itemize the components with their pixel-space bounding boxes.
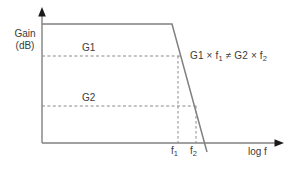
f1-tick-label: f1 [171, 145, 178, 157]
gain-bandwidth-inequality-annotation: G1 × f1 ≠ G2 × f2 [190, 50, 267, 62]
g2-level-label: G2 [82, 92, 95, 104]
x-axis-arrowhead-icon [275, 139, 285, 147]
g1-level-label: G1 [82, 42, 95, 54]
annotation-times-2: × [251, 50, 257, 61]
f2-tick-sub: 2 [193, 149, 197, 158]
annotation-f1-sub: 1 [218, 54, 222, 63]
y-axis-title-line2: (dB) [6, 40, 44, 52]
gain-vs-log-frequency-figure: Gain (dB) log f G1 G2 G1 × f1 ≠ G2 × f2 … [0, 0, 295, 170]
y-axis-title: Gain (dB) [6, 28, 44, 52]
y-axis-arrowhead-icon [38, 7, 46, 17]
annotation-f2-sub: 2 [263, 54, 267, 63]
annotation-not-equal: ≠ [226, 50, 232, 61]
f1-tick-sub: 1 [174, 149, 178, 158]
annotation-times-1: × [207, 50, 213, 61]
x-axis-title: log f [248, 146, 267, 158]
f2-tick-label: f2 [190, 145, 197, 157]
annotation-g1: G1 [190, 50, 204, 61]
response-curve [42, 24, 207, 152]
annotation-g2: G2 [234, 50, 248, 61]
y-axis-title-line1: Gain [6, 28, 44, 40]
figure-canvas [0, 0, 295, 170]
